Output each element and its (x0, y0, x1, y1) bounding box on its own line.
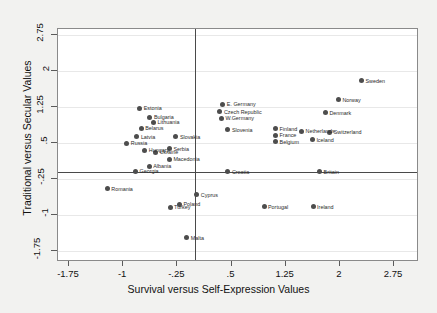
data-point-label: Belgium (280, 139, 299, 144)
data-point (273, 126, 278, 131)
data-point-label: Romania (111, 186, 133, 191)
data-point-label: Macedonia (173, 157, 199, 162)
data-point (147, 115, 152, 120)
data-point-label: Malta (191, 235, 204, 240)
data-point-label: Lithuania (158, 120, 180, 125)
data-point (133, 169, 138, 174)
data-point-label: Ireland (317, 204, 333, 209)
data-point-label: Czech Republic (224, 109, 262, 114)
data-point-label: Georgia (139, 169, 158, 174)
x-axis-tick (285, 261, 286, 266)
data-point (273, 133, 278, 138)
data-point (105, 186, 110, 191)
y-axis-tick (51, 142, 57, 143)
data-point-label: Russia (131, 141, 147, 146)
scatter-plot-figure: SwedenNorwayDenmarkSwitzerlandNetherland… (0, 0, 437, 313)
x-axis-tick-label: .5 (227, 268, 235, 279)
y-axis-tick (51, 250, 57, 251)
data-point (219, 116, 224, 121)
data-point (173, 134, 178, 139)
data-point-label: Britain (324, 169, 339, 174)
x-axis-tick-label: -1 (118, 268, 126, 279)
y-axis-tick-label: -1.75 (0, 243, 48, 254)
data-point-label: Switzerland (334, 130, 362, 135)
y-axis-tick-label: -1 (0, 207, 48, 218)
data-point (194, 192, 199, 197)
y-axis-tick (51, 34, 57, 35)
data-point-label: Portugal (268, 204, 288, 209)
data-point-label: Iceland (316, 137, 333, 142)
gridline-horizontal (58, 179, 417, 180)
x-axis-title: Survival versus Self-Expression Values (0, 283, 437, 295)
x-axis-tick (339, 261, 340, 266)
data-point (225, 169, 230, 174)
y-axis-tick (51, 178, 57, 179)
data-point-label: Bulgaria (154, 115, 174, 120)
data-point-label: Norway (342, 97, 360, 102)
data-point-label: Belarus (145, 126, 163, 131)
data-point (220, 102, 225, 107)
data-point (151, 120, 156, 125)
x-axis-tick-label: 2 (336, 268, 341, 279)
data-point (184, 235, 189, 240)
y-axis-tick-label: 2 (0, 63, 48, 74)
data-point (137, 106, 142, 111)
data-point (336, 97, 341, 102)
x-axis-tick (68, 261, 69, 266)
y-axis-tick (51, 106, 57, 107)
data-point (311, 204, 316, 209)
y-axis-tick (51, 70, 57, 71)
y-axis-tick-label: 1.25 (0, 99, 48, 110)
data-point (323, 110, 328, 115)
data-point-label: Estonia (144, 106, 162, 111)
y-axis-tick-label: .5 (0, 135, 48, 146)
y-axis-tick-label: 2.75 (0, 27, 48, 38)
data-point (317, 169, 322, 174)
y-axis-tick (51, 214, 57, 215)
data-point-label: Slovakia (180, 134, 200, 139)
x-axis-tick (231, 261, 232, 266)
data-point-label: Netherlands (306, 129, 335, 134)
data-point-label: Cyprus (201, 192, 218, 197)
gridline-horizontal (58, 251, 417, 252)
plot-area: SwedenNorwayDenmarkSwitzerlandNetherland… (57, 28, 418, 261)
data-point (310, 137, 315, 142)
data-point-label: Turkey (174, 205, 190, 210)
data-point (142, 148, 147, 153)
data-point (359, 78, 364, 83)
x-axis-tick (176, 261, 177, 266)
gridline-horizontal (58, 35, 417, 36)
gridline-horizontal (58, 215, 417, 216)
data-point-label: W.Germany (225, 116, 253, 121)
y-axis-tick-label: -.25 (0, 171, 48, 182)
data-point (134, 134, 139, 139)
data-point-label: E. Germany (227, 102, 256, 107)
data-point-label: Denmark (329, 110, 351, 115)
x-axis-tick-label: 1.25 (275, 268, 294, 279)
data-point-label: Croatia (232, 169, 249, 174)
x-axis-tick-label: -.25 (168, 268, 184, 279)
x-axis-tick-label: 2.75 (384, 268, 403, 279)
data-point (299, 129, 304, 134)
data-point (167, 157, 172, 162)
x-axis-tick-label: -1.75 (57, 268, 79, 279)
data-point (124, 141, 129, 146)
gridline-horizontal (58, 71, 417, 72)
data-point (217, 109, 222, 114)
x-axis-tick (393, 261, 394, 266)
data-point (139, 126, 144, 131)
data-point-label: Finland (280, 126, 298, 131)
data-point-label: Sweden (366, 78, 385, 83)
data-point-label: Latvia (141, 134, 155, 139)
x-axis-tick (122, 261, 123, 266)
data-point (262, 204, 267, 209)
data-point (168, 205, 173, 210)
data-point-label: Slovenia (232, 127, 253, 132)
data-point (225, 127, 230, 132)
gridline-horizontal (58, 143, 417, 144)
data-point-label: Hungary (149, 148, 169, 153)
reference-line-vertical (195, 29, 196, 260)
